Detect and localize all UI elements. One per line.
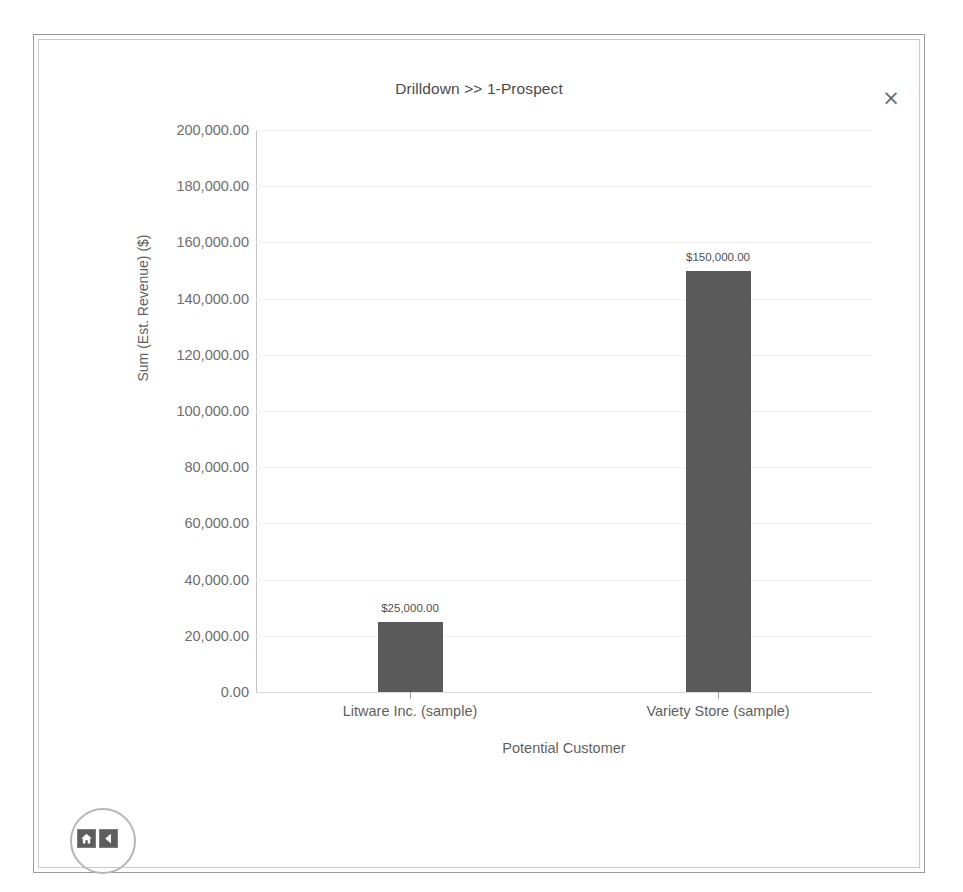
page-title: Drilldown >> 1-Prospect bbox=[39, 80, 919, 98]
back-button[interactable] bbox=[99, 829, 118, 848]
gridline bbox=[256, 580, 872, 581]
gridline bbox=[256, 692, 872, 693]
home-icon bbox=[80, 832, 93, 845]
gridline bbox=[256, 523, 872, 524]
bar-value-label: $150,000.00 bbox=[686, 251, 750, 263]
gridline bbox=[256, 186, 872, 187]
gridline bbox=[256, 411, 872, 412]
gridline bbox=[256, 299, 872, 300]
drilldown-window: Drilldown >> 1-Prospect × Sum (Est. Reve… bbox=[33, 34, 925, 873]
y-axis-tick-label: 60,000.00 bbox=[184, 515, 249, 531]
y-axis-tick-label: 20,000.00 bbox=[184, 628, 249, 644]
gridline bbox=[256, 355, 872, 356]
y-axis-tick-label: 140,000.00 bbox=[176, 291, 249, 307]
window-inner-panel: Drilldown >> 1-Prospect × Sum (Est. Reve… bbox=[38, 39, 920, 868]
x-axis-tick-mark bbox=[410, 692, 411, 699]
x-axis-tick-label: Litware Inc. (sample) bbox=[343, 703, 478, 719]
y-axis-tick-label: 160,000.00 bbox=[176, 234, 249, 250]
x-axis-tick-label: Variety Store (sample) bbox=[646, 703, 789, 719]
gridline bbox=[256, 242, 872, 243]
y-axis-tick-labels: 200,000.00180,000.00160,000.00140,000.00… bbox=[99, 130, 249, 692]
y-axis-tick-label: 40,000.00 bbox=[184, 572, 249, 588]
gridline bbox=[256, 130, 872, 131]
close-icon[interactable]: × bbox=[877, 84, 905, 112]
nav-buttons bbox=[77, 829, 118, 848]
chevron-left-icon bbox=[102, 832, 115, 845]
x-axis-title: Potential Customer bbox=[256, 740, 872, 756]
y-axis-tick-label: 120,000.00 bbox=[176, 347, 249, 363]
bar[interactable] bbox=[378, 622, 443, 692]
y-axis-tick-label: 200,000.00 bbox=[176, 122, 249, 138]
gridline bbox=[256, 467, 872, 468]
x-axis-tick-mark bbox=[718, 692, 719, 699]
plot-area: $25,000.00$150,000.00 bbox=[256, 130, 872, 692]
home-button[interactable] bbox=[77, 829, 96, 848]
y-axis-tick-label: 100,000.00 bbox=[176, 403, 249, 419]
y-axis-tick-label: 80,000.00 bbox=[184, 459, 249, 475]
y-axis-tick-label: 0.00 bbox=[221, 684, 249, 700]
gridline bbox=[256, 636, 872, 637]
bar[interactable] bbox=[686, 271, 751, 693]
bar-value-label: $25,000.00 bbox=[381, 602, 439, 614]
y-axis-tick-label: 180,000.00 bbox=[176, 178, 249, 194]
